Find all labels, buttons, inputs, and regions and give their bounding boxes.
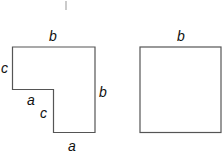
l-shape-right-label: b <box>99 84 107 100</box>
l-shape: b c a c a b <box>1 28 107 154</box>
l-shape-left-label: c <box>1 60 8 76</box>
l-shape-step-vertical-label: c <box>40 105 47 121</box>
square-top-label: b <box>177 28 185 44</box>
square: b <box>140 28 221 133</box>
l-shape-step-horizontal-label: a <box>27 92 35 108</box>
smudge-artifact <box>65 1 67 10</box>
square-outline <box>140 47 221 133</box>
l-shape-bottom-label: a <box>68 138 76 154</box>
l-shape-outline <box>13 47 96 133</box>
diagram-canvas: b c a c a b b <box>0 0 223 156</box>
l-shape-top-label: b <box>49 28 57 44</box>
